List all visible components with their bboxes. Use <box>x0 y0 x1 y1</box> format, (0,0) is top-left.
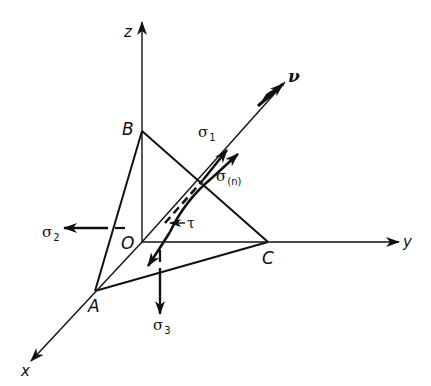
sigma-n-label: σ(n) <box>216 169 241 184</box>
tau-label: τ <box>187 216 195 230</box>
nu-axis-label: ν <box>288 68 300 85</box>
point-o-label: O <box>121 235 134 252</box>
x-axis-label: x <box>21 364 30 379</box>
point-c-label: C <box>262 250 274 267</box>
sigma1-sub: 1 <box>209 132 215 143</box>
sigma2-label: σ2 <box>42 225 60 240</box>
sigma3-label: σ3 <box>153 318 171 333</box>
sigma1-label: σ1 <box>198 125 216 140</box>
point-b-label: B <box>122 121 134 138</box>
diagram-canvas <box>0 0 431 386</box>
y-axis-label: y <box>403 235 412 250</box>
z-axis-label: z <box>124 25 132 40</box>
sigma1-dashed <box>165 180 203 223</box>
sigma3-sub: 3 <box>164 325 170 336</box>
sigma-n-sub: (n) <box>227 176 241 187</box>
sigma1-symbol: σ <box>198 123 208 141</box>
stress-tetrahedron-diagram: z y x ν B O A C σ1 σ(n) σ2 σ3 τ <box>0 0 431 386</box>
point-a-label: A <box>88 298 100 315</box>
sigma2-symbol: σ <box>42 223 52 241</box>
sigma3-symbol: σ <box>153 316 163 334</box>
sigma-n-symbol: σ <box>216 167 226 185</box>
x-axis <box>31 242 142 361</box>
edge-bc <box>142 131 268 242</box>
nu-axis <box>142 82 285 242</box>
sigma2-sub: 2 <box>53 232 59 243</box>
